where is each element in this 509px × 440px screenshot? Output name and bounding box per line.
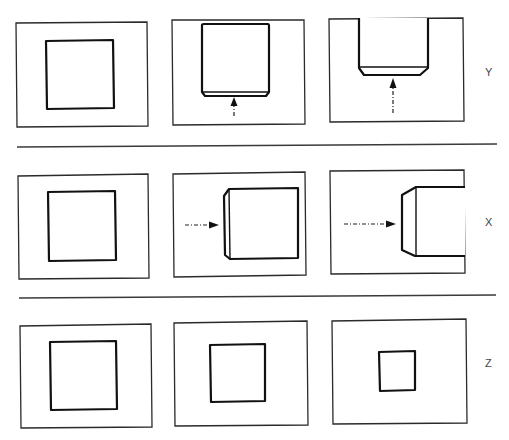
panel-z-3 (332, 319, 467, 424)
arrow-up-icon (390, 78, 397, 88)
panel-x-2 (173, 172, 306, 277)
axis-motion-diagram: Y X (0, 0, 509, 440)
arrow-right-icon (386, 221, 396, 228)
row-divider (19, 295, 496, 298)
panel-y-1 (16, 22, 148, 127)
axis-label-x: X (485, 216, 493, 228)
axis-label-z: Z (485, 357, 492, 369)
workpiece-chamfered (224, 188, 298, 259)
workpiece-medium (210, 344, 265, 402)
panel-y-2 (172, 20, 305, 125)
row-z: Z (20, 319, 492, 428)
workpiece-square (46, 40, 114, 109)
row-divider (17, 144, 497, 147)
panel-x-3 (330, 170, 465, 274)
workpiece-large (50, 341, 117, 410)
workpiece-extended (402, 187, 465, 256)
arrow-up-icon (231, 97, 238, 106)
panel-z-1 (20, 324, 152, 428)
axis-label-y: Y (485, 66, 493, 78)
row-y: Y (16, 18, 493, 127)
row-x: X (18, 170, 493, 279)
arrow-right-icon (209, 222, 219, 229)
workpiece-square (48, 191, 116, 261)
panel-y-3 (329, 18, 464, 122)
workpiece-small (379, 351, 415, 391)
panel-x-1 (18, 174, 149, 279)
workpiece-chamfered (202, 24, 269, 96)
panel-z-2 (174, 321, 308, 426)
